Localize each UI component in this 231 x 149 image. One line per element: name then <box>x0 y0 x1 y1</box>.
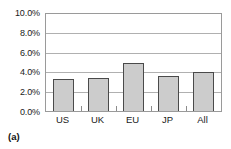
x-tick-label-all: All <box>197 114 208 125</box>
bars-layer <box>46 14 221 111</box>
bar-eu <box>123 63 144 112</box>
axis-tick <box>116 106 117 111</box>
x-tick-label-jp: JP <box>162 114 173 125</box>
bar-us <box>53 79 74 111</box>
y-tick-label: 10.0% <box>15 8 40 18</box>
y-tick-label: 4.0% <box>20 67 40 77</box>
x-tick-label-uk: UK <box>91 114 104 125</box>
axis-tick <box>151 106 152 111</box>
x-axis: USUKEUJPAll <box>45 114 222 128</box>
y-tick-label: 2.0% <box>20 87 40 97</box>
y-tick-label: 8.0% <box>20 28 40 38</box>
x-tick-label-eu: EU <box>126 114 139 125</box>
bar-all <box>193 72 214 111</box>
axis-tick <box>186 106 187 111</box>
x-tick-label-us: US <box>56 114 69 125</box>
figure-panel: 0.0%2.0%4.0%6.0%8.0%10.0% USUKEUJPAll (a… <box>0 0 231 149</box>
y-tick-label: 0.0% <box>20 107 40 117</box>
y-axis: 0.0%2.0%4.0%6.0%8.0%10.0% <box>0 13 42 112</box>
axis-tick <box>81 106 82 111</box>
figure-caption: (a) <box>8 131 20 142</box>
plot-area <box>45 13 222 112</box>
bar-jp <box>158 76 179 111</box>
bar-uk <box>88 78 109 111</box>
y-tick-label: 6.0% <box>20 48 40 58</box>
